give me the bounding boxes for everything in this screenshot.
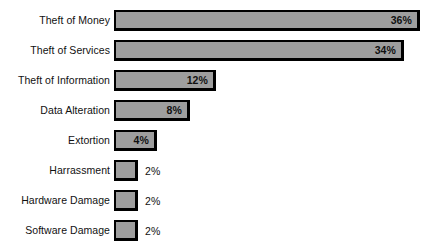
- bar-track: 12%: [114, 70, 216, 91]
- bar-rect[interactable]: [114, 220, 138, 241]
- bar-row: Software Damage2%: [0, 220, 436, 241]
- bar-rect[interactable]: 4%: [114, 130, 157, 151]
- bar-chart: Theft of Money36%Theft of Services34%The…: [0, 0, 436, 243]
- bar-track: 34%: [114, 40, 404, 61]
- bar-value-label: 4%: [134, 132, 149, 148]
- bar-category-label: Theft of Money: [0, 10, 110, 31]
- bar-rect[interactable]: 8%: [114, 100, 190, 121]
- bar-value-label: 36%: [391, 12, 412, 28]
- bar-category-label: Hardware Damage: [0, 190, 110, 211]
- bar-row: Data Alteration8%: [0, 100, 436, 121]
- bar-track: [114, 160, 138, 181]
- bar-row: Theft of Services34%: [0, 40, 436, 61]
- bar-row: Hardware Damage2%: [0, 190, 436, 211]
- bar-track: 8%: [114, 100, 190, 121]
- bar-row: Theft of Information12%: [0, 70, 436, 91]
- bar-value-label: 12%: [187, 72, 208, 88]
- bar-value-label: 8%: [167, 102, 182, 118]
- bar-track: 36%: [114, 10, 420, 31]
- bar-row: Harrassment2%: [0, 160, 436, 181]
- bar-row: Extortion4%: [0, 130, 436, 151]
- bar-category-label: Extortion: [0, 130, 110, 151]
- bar-rect[interactable]: 12%: [114, 70, 216, 91]
- bar-rect[interactable]: 36%: [114, 10, 420, 31]
- bar-category-label: Theft of Services: [0, 40, 110, 61]
- bar-rect[interactable]: [114, 190, 138, 211]
- bar-track: [114, 220, 138, 241]
- bar-track: 4%: [114, 130, 157, 151]
- bar-category-label: Theft of Information: [0, 70, 110, 91]
- bar-track: [114, 190, 138, 211]
- bar-row: Theft of Money36%: [0, 10, 436, 31]
- bar-value-label: 2%: [145, 190, 160, 211]
- bar-category-label: Harrassment: [0, 160, 110, 181]
- bar-rect[interactable]: [114, 160, 138, 181]
- bar-category-label: Software Damage: [0, 220, 110, 241]
- bar-value-label: 2%: [145, 220, 160, 241]
- bar-rect[interactable]: 34%: [114, 40, 404, 61]
- bar-category-label: Data Alteration: [0, 100, 110, 121]
- bar-value-label: 34%: [375, 42, 396, 58]
- bar-value-label: 2%: [145, 160, 160, 181]
